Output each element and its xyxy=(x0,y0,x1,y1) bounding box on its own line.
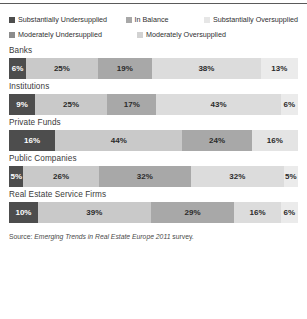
bar-segment[interactable]: 32% xyxy=(191,166,283,187)
category-label: Private Funds xyxy=(9,117,298,130)
bar-segment[interactable]: 39% xyxy=(38,202,151,223)
bar-segment[interactable]: 5% xyxy=(9,166,23,187)
bar-segment[interactable]: 16% xyxy=(252,130,298,151)
source-suffix: survey. xyxy=(170,233,193,240)
bar-segment[interactable]: 38% xyxy=(152,58,261,79)
bar-segment[interactable]: 6% xyxy=(281,94,298,115)
bar-segment-value: 5% xyxy=(10,172,22,181)
bar-segment-value: 16% xyxy=(24,136,40,145)
bar-segment-value: 6% xyxy=(284,100,296,109)
bar-segment-value: 9% xyxy=(16,100,28,109)
bar-segment-value: 44% xyxy=(111,136,127,145)
legend-label: In Balance xyxy=(135,15,169,24)
legend-label: Substantially Undersupplied xyxy=(18,15,107,24)
stacked-bar: 5%26%32%32%5% xyxy=(9,166,298,187)
stacked-bar: 6%25%19%38%13% xyxy=(9,58,298,79)
bar-segment[interactable]: 9% xyxy=(9,94,35,115)
bar-segment[interactable]: 10% xyxy=(9,202,38,223)
bar-segment[interactable]: 26% xyxy=(23,166,98,187)
bar-segment-value: 17% xyxy=(124,100,140,109)
source-title: Emerging Trends in Real Estate Europe 20… xyxy=(34,233,170,240)
legend-label: Moderately Undersupplied xyxy=(18,30,102,39)
bar-segment-value: 39% xyxy=(86,208,102,217)
bar-segment-value: 24% xyxy=(209,136,225,145)
bar-segment-value: 43% xyxy=(211,100,227,109)
bar-segment[interactable]: 43% xyxy=(156,94,280,115)
legend-row: Substantially UndersuppliedIn BalanceSub… xyxy=(9,13,298,26)
bar-segment[interactable]: 44% xyxy=(55,130,182,151)
bar-segment-value: 13% xyxy=(271,64,287,73)
legend-item[interactable]: Moderately Undersupplied xyxy=(9,30,137,39)
bar-segment[interactable]: 17% xyxy=(107,94,156,115)
category-block: Institutions9%25%17%43%6% xyxy=(9,81,298,115)
category-block: Public Companies5%26%32%32%5% xyxy=(9,153,298,187)
chart-figure: Substantially UndersuppliedIn BalanceSub… xyxy=(0,0,307,319)
stacked-bar: 16%44%24%16% xyxy=(9,130,298,151)
bar-segment-value: 10% xyxy=(15,208,31,217)
legend-label: Substantially Oversupplied xyxy=(213,15,298,24)
bar-segment[interactable]: 32% xyxy=(99,166,191,187)
bar-segment[interactable]: 5% xyxy=(284,166,298,187)
stacked-bar: 10%39%29%16%6% xyxy=(9,202,298,223)
bar-segment-value: 29% xyxy=(184,208,200,217)
bar-segment-value: 25% xyxy=(54,64,70,73)
category-label: Real Estate Service Firms xyxy=(9,189,298,202)
bar-segment[interactable]: 25% xyxy=(26,58,98,79)
category-block: Banks6%25%19%38%13% xyxy=(9,45,298,79)
bar-segment-value: 6% xyxy=(12,64,24,73)
category-block: Private Funds16%44%24%16% xyxy=(9,117,298,151)
legend-item[interactable]: In Balance xyxy=(126,15,204,24)
category-block: Real Estate Service Firms10%39%29%16%6% xyxy=(9,189,298,223)
bar-segment-value: 32% xyxy=(229,172,245,181)
source-prefix: Source: xyxy=(9,233,34,240)
bar-segment[interactable]: 24% xyxy=(182,130,251,151)
bar-segment-value: 16% xyxy=(250,208,266,217)
category-label: Institutions xyxy=(9,81,298,94)
bar-segment[interactable]: 19% xyxy=(98,58,152,79)
stacked-bar: 9%25%17%43%6% xyxy=(9,94,298,115)
bar-segment[interactable]: 16% xyxy=(234,202,280,223)
legend-swatch-icon xyxy=(9,17,15,23)
legend-row: Moderately UndersuppliedModerately Overs… xyxy=(9,28,298,41)
legend-item[interactable]: Moderately Oversupplied xyxy=(137,30,223,39)
bar-segment-value: 25% xyxy=(63,100,79,109)
bar-segment-value: 19% xyxy=(117,64,133,73)
chart-legend: Substantially UndersuppliedIn BalanceSub… xyxy=(9,13,298,41)
legend-item[interactable]: Substantially Undersupplied xyxy=(9,15,126,24)
bar-segment[interactable]: 25% xyxy=(35,94,107,115)
legend-item[interactable]: Substantially Oversupplied xyxy=(204,15,298,24)
legend-label: Moderately Oversupplied xyxy=(146,30,226,39)
source-note: Source: Emerging Trends in Real Estate E… xyxy=(9,232,298,242)
bar-segment-value: 38% xyxy=(198,64,214,73)
bar-segment-value: 5% xyxy=(285,172,297,181)
chart-inner: Substantially UndersuppliedIn BalanceSub… xyxy=(0,4,307,319)
legend-swatch-icon xyxy=(204,17,210,23)
bar-segment-value: 32% xyxy=(137,172,153,181)
chart-rows: Banks6%25%19%38%13%Institutions9%25%17%4… xyxy=(9,45,298,223)
bar-segment-value: 26% xyxy=(53,172,69,181)
bar-segment[interactable]: 16% xyxy=(9,130,55,151)
legend-swatch-icon xyxy=(9,32,15,38)
legend-swatch-icon xyxy=(126,17,132,23)
category-label: Public Companies xyxy=(9,153,298,166)
legend-swatch-icon xyxy=(137,32,143,38)
bar-segment-value: 16% xyxy=(267,136,283,145)
bar-segment[interactable]: 29% xyxy=(151,202,235,223)
bar-segment-value: 6% xyxy=(284,208,296,217)
category-label: Banks xyxy=(9,45,298,58)
bar-segment[interactable]: 6% xyxy=(9,58,26,79)
bar-segment[interactable]: 6% xyxy=(281,202,298,223)
bar-segment[interactable]: 13% xyxy=(261,58,298,79)
